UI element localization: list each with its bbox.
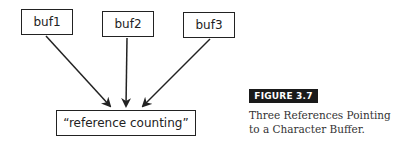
node-buf3-label: buf3	[195, 18, 222, 32]
caption-line-1: Three References Pointing	[249, 108, 409, 122]
node-buf2-label: buf2	[114, 17, 141, 31]
node-buf2: buf2	[102, 11, 154, 37]
arrow-buf3-to-target	[143, 39, 210, 106]
node-target-label: “reference counting”	[63, 116, 188, 130]
arrow-buf1-to-target	[46, 36, 110, 106]
node-buf1: buf1	[21, 9, 73, 35]
arrow-buf2-to-target	[126, 38, 127, 106]
figure-label: FIGURE 3.7	[249, 89, 318, 103]
figure-caption: Three References Pointing to a Character…	[249, 108, 409, 136]
node-buf1-label: buf1	[33, 15, 60, 29]
node-target: “reference counting”	[56, 110, 196, 136]
caption-line-2: to a Character Buffer.	[249, 122, 409, 136]
node-buf3: buf3	[183, 12, 235, 38]
